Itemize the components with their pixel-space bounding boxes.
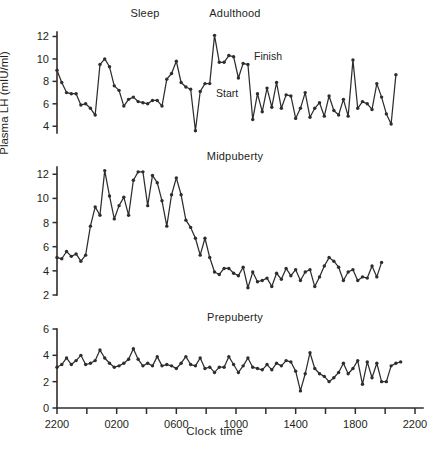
- svg-text:6: 6: [43, 98, 49, 110]
- plot-area-midpuberty: 24681012: [0, 145, 429, 303]
- svg-text:0600: 0600: [164, 418, 188, 430]
- svg-text:12: 12: [37, 168, 49, 180]
- svg-text:2: 2: [43, 289, 49, 301]
- panel-prepuberty: Prepuberty 02462200020006001000140018002…: [0, 303, 429, 450]
- svg-text:0200: 0200: [104, 418, 128, 430]
- panel-adulthood: Adulthood Sleep Start Finish 4681012: [0, 0, 429, 150]
- svg-text:6: 6: [43, 323, 49, 335]
- svg-text:10: 10: [37, 53, 49, 65]
- svg-text:8: 8: [43, 217, 49, 229]
- svg-text:12: 12: [37, 30, 49, 42]
- svg-text:10: 10: [37, 192, 49, 204]
- plot-area-adulthood: 4681012: [0, 0, 429, 150]
- svg-text:6: 6: [43, 241, 49, 253]
- svg-text:1000: 1000: [224, 418, 248, 430]
- svg-text:1400: 1400: [283, 418, 307, 430]
- svg-text:8: 8: [43, 75, 49, 87]
- svg-text:4: 4: [43, 349, 49, 361]
- svg-text:0: 0: [43, 402, 49, 414]
- svg-text:1800: 1800: [343, 418, 367, 430]
- svg-text:2200: 2200: [403, 418, 427, 430]
- svg-text:2: 2: [43, 376, 49, 388]
- plot-area-prepuberty: 02462200020006001000140018002200: [0, 303, 429, 450]
- svg-text:2200: 2200: [45, 418, 69, 430]
- lh-pulsatility-figure: Plasma LH (mIU/ml) Clock time Adulthood …: [0, 0, 429, 450]
- svg-text:4: 4: [43, 265, 49, 277]
- svg-text:4: 4: [43, 120, 49, 132]
- panel-midpuberty: Midpuberty 24681012: [0, 145, 429, 303]
